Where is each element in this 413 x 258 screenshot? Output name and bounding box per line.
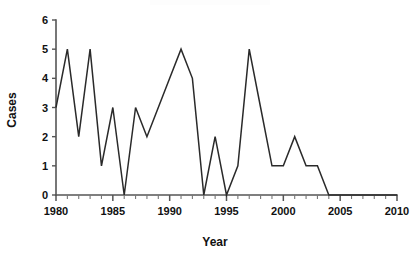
x-tick-label-1985: 1985 [101,205,125,217]
line-chart: 0123456 1980198519901995200020052010 Yea… [0,0,413,258]
y-axis-title: Cases [5,92,19,128]
x-tick-label-2000: 2000 [271,205,295,217]
y-tick-label-2: 2 [42,131,48,143]
y-tick-label-6: 6 [42,14,48,26]
y-tick-label-1: 1 [42,160,48,172]
y-tick-label-5: 5 [42,43,48,55]
chart-figure: 0123456 1980198519901995200020052010 Yea… [0,0,413,258]
x-axis-title: Year [202,235,228,249]
plot-background [56,20,397,195]
y-tick-label-3: 3 [42,102,48,114]
y-tick-label-0: 0 [42,189,48,201]
x-tick-label-2005: 2005 [328,205,352,217]
x-tick-label-2010: 2010 [385,205,409,217]
x-tick-label-1990: 1990 [157,205,181,217]
x-tick-label-1980: 1980 [44,205,68,217]
x-tick-labels: 1980198519901995200020052010 [44,205,409,217]
y-tick-labels: 0123456 [42,14,49,201]
y-tick-label-4: 4 [42,72,49,84]
x-tick-label-1995: 1995 [214,205,238,217]
y-axis [52,20,56,195]
